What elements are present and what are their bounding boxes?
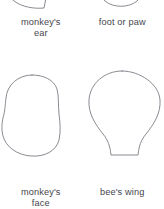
- foot-or-paw-outline-icon: [82, 0, 163, 14]
- figure-caption-bees-wing: bee's wing: [82, 187, 164, 198]
- figure-caption-monkeys-face: monkey's face: [0, 187, 82, 209]
- bees-wing-figure: [82, 66, 164, 164]
- monkeys-ear-figure: [0, 0, 82, 14]
- figure-cell-monkeys-ear: monkey's ear: [0, 0, 82, 62]
- figure-caption-cell-monkeys-face: monkey's face: [0, 187, 82, 209]
- figure-cell-monkeys-face: [0, 62, 82, 187]
- bees-wing-outline-icon: [82, 66, 163, 164]
- figure-caption-foot-or-paw: foot or paw: [82, 17, 164, 28]
- figure-cell-foot-or-paw: foot or paw: [82, 0, 164, 62]
- figure-caption-cell-bees-wing: bee's wing: [82, 187, 164, 209]
- figure-caption-monkeys-ear: monkey's ear: [0, 17, 82, 39]
- shape-template-sheet: monkey's ear foot or paw monkey's face b…: [0, 0, 163, 209]
- monkeys-face-figure: [0, 66, 82, 164]
- foot-or-paw-figure: [82, 0, 164, 14]
- monkeys-ear-outline-icon: [0, 0, 82, 14]
- figure-cell-bees-wing: [82, 62, 164, 187]
- monkeys-face-outline-icon: [0, 66, 82, 164]
